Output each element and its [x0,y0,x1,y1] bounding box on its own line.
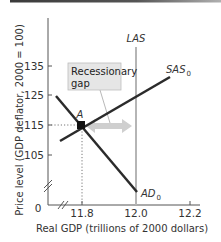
callout-line-2: gap [71,78,90,89]
equilibrium-point-a [77,121,85,129]
y-ticks [48,66,52,155]
y-tick-115: 115 [24,119,44,131]
ad-label: AD0 [140,188,161,202]
origin-label: 0 [35,202,42,214]
aggregate-supply-demand-chart: 135 125 115 105 0 11.8 12.0 12.2 Real GD… [0,0,221,242]
y-tick-135: 135 [24,60,44,72]
x-axis-title: Real GDP (trillions of 2000 dollars) [36,223,208,234]
y-tick-125: 125 [24,89,44,101]
x-tick-11-8: 11.8 [70,207,93,219]
point-a-label: A [76,109,84,120]
x-tick-12-2: 12.2 [178,207,201,219]
ad-curve [56,96,137,192]
y-axis-title: Price level (GDP deflator, 2000 = 100) [14,24,25,216]
y-tick-105: 105 [24,149,44,161]
callout-line-1: Recessionary [71,66,137,77]
las-label: LAS [127,33,146,44]
x-tick-12-0: 12.0 [124,207,147,219]
top-rule [10,0,221,3]
sas-label: SAS0 [166,64,191,78]
